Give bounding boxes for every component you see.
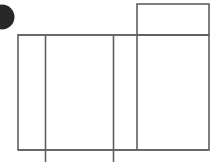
drawing-canvas: [0, 0, 222, 162]
canvas-background: [0, 0, 222, 162]
line-figure: [0, 0, 222, 162]
